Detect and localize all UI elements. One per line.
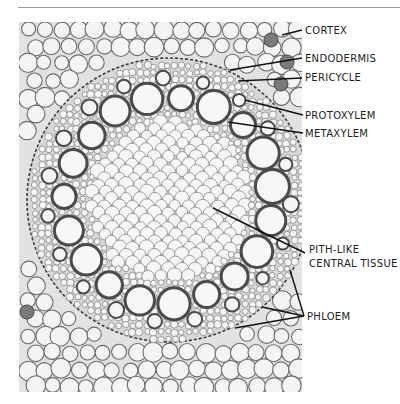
cortex-cell	[78, 39, 94, 55]
metaxylem-vessel	[169, 86, 194, 111]
phloem-cell	[52, 265, 59, 272]
metaxylem-vessel	[131, 83, 162, 114]
phloem-cell	[74, 301, 80, 307]
phloem-cell	[136, 62, 143, 69]
phloem-cell	[82, 302, 87, 307]
protoxylem-vessel	[261, 121, 275, 135]
phloem-cell	[115, 266, 121, 272]
phloem-cell	[200, 273, 205, 278]
protoxylem-vessel	[41, 209, 55, 223]
cortex-cell	[80, 345, 95, 360]
phloem-cell	[221, 258, 227, 264]
phloem-cell	[88, 154, 93, 159]
phloem-cell	[88, 83, 95, 90]
metaxylem-vessel	[221, 263, 248, 290]
phloem-cell	[33, 217, 38, 222]
phloem-cell	[45, 133, 53, 141]
phloem-cell	[138, 78, 144, 84]
metaxylem-vessel	[125, 286, 154, 315]
phloem-cell	[80, 196, 85, 201]
phloem-cell	[88, 238, 94, 244]
phloem-cell	[166, 328, 171, 333]
phloem-cell	[213, 126, 220, 133]
phloem-cell	[59, 273, 66, 280]
phloem-cell	[46, 244, 53, 251]
phloem-cell	[32, 224, 38, 230]
phloem-cell	[101, 308, 107, 314]
phloem-cell	[277, 126, 284, 133]
phloem-cell	[81, 209, 88, 216]
protoxylem-vessel	[279, 158, 292, 171]
phloem-cell	[228, 251, 234, 257]
phloem-cell	[208, 71, 214, 77]
cortex-cell	[123, 363, 138, 378]
cortex-cell	[129, 39, 146, 56]
phloem-cell	[221, 70, 227, 76]
phloem-cell	[200, 328, 207, 335]
header-rule	[18, 7, 400, 8]
phloem-cell	[150, 70, 155, 75]
phloem-cell	[60, 118, 66, 124]
metaxylem-vessel	[71, 245, 102, 276]
phloem-cell	[38, 251, 45, 258]
phloem-cell	[285, 273, 291, 279]
phloem-cell	[186, 77, 192, 83]
phloem-cell	[269, 111, 276, 118]
metaxylem-vessel	[54, 216, 83, 245]
phloem-cell	[123, 321, 129, 327]
phloem-cell	[178, 62, 184, 68]
phloem-cell	[290, 146, 296, 152]
phloem-cell	[32, 204, 37, 209]
cortex-cell	[283, 311, 298, 326]
phloem-cell	[45, 154, 52, 161]
metaxylem-vessel	[256, 206, 286, 236]
phloem-cell	[46, 238, 51, 243]
phloem-cell	[108, 127, 114, 133]
label-endodermis: ENDODERMIS	[305, 53, 376, 64]
metaxylem-vessel	[52, 184, 76, 208]
phloem-cell	[89, 216, 95, 222]
cortex-cell	[249, 378, 266, 392]
phloem-cell	[284, 146, 290, 152]
phloem-cell	[116, 323, 122, 329]
phloem-cell	[66, 293, 74, 301]
cortex-cell	[127, 376, 145, 392]
cortex-cell	[173, 22, 190, 39]
phloem-cell	[241, 139, 248, 146]
protoxylem-vessel	[56, 131, 72, 147]
phloem-cell	[278, 259, 284, 265]
phloem-cell	[298, 154, 302, 162]
cortex-cell	[60, 70, 78, 88]
cortex-cell	[246, 38, 264, 56]
phloem-cell	[299, 161, 302, 167]
phloem-cell	[277, 253, 283, 259]
phloem-cell	[46, 147, 52, 153]
phloem-cell	[137, 69, 144, 76]
phloem-cell	[95, 308, 101, 314]
cortex-cell	[248, 345, 264, 361]
protoxylem-vessel	[197, 77, 210, 90]
phloem-cell	[94, 239, 100, 245]
metaxylem-vessel	[194, 282, 220, 308]
protoxylem-vessel	[148, 314, 162, 328]
phloem-cell	[54, 118, 60, 124]
phloem-cell	[263, 287, 269, 293]
stained-cell	[280, 55, 294, 69]
cortex-cell	[258, 326, 276, 344]
phloem-cell	[221, 322, 228, 329]
cortex-cell	[104, 22, 122, 37]
phloem-cell	[214, 321, 222, 329]
label-metaxylem: METAXYLEM	[305, 128, 368, 139]
cortex-cell	[290, 294, 302, 311]
cortex-cell	[95, 345, 110, 360]
cortex-cell	[37, 55, 51, 69]
phloem-cell	[285, 126, 291, 132]
phloem-cell	[116, 127, 122, 133]
micrograph-image	[19, 22, 302, 392]
phloem-cell	[248, 105, 254, 111]
cortex-cell	[104, 363, 119, 378]
phloem-cell	[173, 336, 179, 342]
phloem-cell	[40, 190, 46, 196]
phloem-cell	[179, 330, 184, 335]
phloem-cell	[47, 141, 53, 147]
